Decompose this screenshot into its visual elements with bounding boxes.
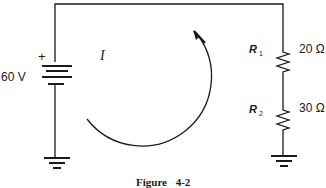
r2-subscript: 2	[259, 110, 263, 117]
resistor-r1-icon	[277, 48, 289, 74]
battery-icon	[42, 66, 72, 84]
r1-label: R1	[249, 44, 263, 57]
current-label: I	[100, 49, 105, 63]
r2-label: R2	[249, 104, 263, 117]
source-voltage-label: 60 V	[1, 71, 26, 83]
r2-value-label: 30 Ω	[299, 102, 325, 114]
figure-caption: Figure 4-2	[136, 177, 190, 188]
circuit-diagram	[0, 0, 326, 188]
ground-icon	[271, 156, 297, 166]
current-arc-icon	[87, 34, 212, 146]
resistor-r2-icon	[277, 107, 289, 132]
r2-name: R	[249, 103, 257, 115]
r1-subscript: 1	[259, 50, 263, 57]
r1-value-label: 20 Ω	[299, 43, 325, 55]
ground-icon	[44, 158, 70, 168]
r1-name: R	[249, 43, 257, 55]
polarity-plus-label: +	[38, 50, 46, 63]
